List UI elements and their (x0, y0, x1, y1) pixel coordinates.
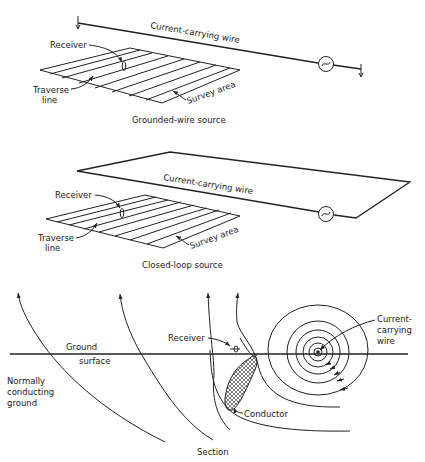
wire-cross-section (316, 350, 320, 354)
ac-source-icon (319, 57, 334, 72)
conductor-body (225, 356, 257, 410)
magnetic-field-circles (268, 305, 368, 395)
receiver-label: Receiver (50, 40, 87, 50)
caption-closed-loop: Closed-loop source (142, 260, 223, 270)
traverse-label-line: line (45, 243, 60, 253)
wire-label: Current-carrying wire (150, 20, 241, 45)
receiver-icon (120, 209, 124, 218)
traverse-label: Traverse (32, 85, 69, 95)
traverse-label: Traverse (37, 233, 74, 243)
normal-ground-label: ground (7, 398, 37, 408)
closed-loop-panel: Current-carrying wire Receiver Traverse … (37, 152, 410, 270)
receiver-icon (230, 346, 240, 352)
section-panel: Ground surface Normally conducting groun… (7, 293, 412, 457)
traverse-label-line: line (42, 95, 57, 105)
survey-label: Survey area (185, 79, 237, 106)
wire-label: Current-carrying wire (163, 172, 254, 196)
ac-source-icon (319, 207, 334, 222)
survey-label: Survey area (188, 224, 240, 251)
receiver-label: Receiver (168, 333, 205, 343)
surface-label: surface (79, 356, 110, 366)
wire-label: carrying (377, 325, 412, 335)
figure: Current-carrying wire Receiver Traverse … (0, 0, 425, 462)
wire-label: wire (377, 336, 395, 346)
normal-ground-label: Normally (7, 376, 45, 386)
ground-label: Ground (66, 342, 97, 352)
caption-grounded: Grounded-wire source (132, 115, 226, 125)
grounded-wire-panel: Current-carrying wire Receiver Traverse … (32, 16, 363, 125)
wire-label: Current- (377, 314, 412, 324)
receiver-label: Receiver (55, 190, 92, 200)
caption-section: Section (197, 447, 229, 457)
field-lines (18, 293, 350, 442)
conductor-label: Conductor (244, 409, 289, 419)
normal-ground-label: conducting (7, 387, 54, 397)
